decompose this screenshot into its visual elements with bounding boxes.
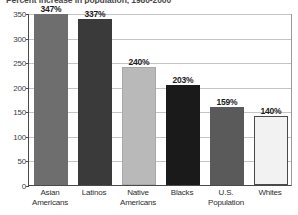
- plot-area: 347%337%240%203%159%140%: [28, 14, 292, 186]
- x-tick-label: U.S.Population: [204, 188, 248, 207]
- bar-value-label: 347%: [41, 4, 62, 14]
- chart-title: Percent increase in population, 1980-200…: [6, 0, 286, 4]
- bar[interactable]: 203%: [166, 85, 200, 185]
- y-tick-label: 100: [2, 132, 26, 141]
- x-tick-label: AsianAmericans: [28, 188, 72, 207]
- x-axis: AsianAmericansLatinosNativeAmericansBlac…: [28, 188, 292, 215]
- bars-layer: 347%337%240%203%159%140%: [29, 15, 291, 185]
- x-tick-label-line: Americans: [116, 198, 160, 208]
- x-tick-label-line: Latinos: [72, 188, 116, 198]
- bar-value-label: 240%: [129, 57, 150, 67]
- y-tickmark: [26, 186, 29, 187]
- x-tick-label: Latinos: [72, 188, 116, 198]
- x-tick-label-line: Blacks: [160, 188, 204, 198]
- bar-value-label: 140%: [261, 106, 282, 116]
- bar[interactable]: 347%: [34, 14, 68, 185]
- y-tick-label: 250: [2, 59, 26, 68]
- bar[interactable]: 240%: [122, 67, 156, 185]
- bar[interactable]: 140%: [254, 116, 288, 185]
- y-tick-label: 50: [2, 157, 26, 166]
- bar-value-label: 337%: [85, 9, 106, 19]
- bar-chart-figure: Percent increase in population, 1980-200…: [0, 0, 298, 215]
- y-tick-label: 0: [2, 182, 26, 191]
- x-tick-label: NativeAmericans: [116, 188, 160, 207]
- x-tick-label-line: U.S.: [204, 188, 248, 198]
- y-tick-label: 150: [2, 108, 26, 117]
- x-tick-label-line: Asian: [28, 188, 72, 198]
- x-tick-label: Blacks: [160, 188, 204, 198]
- x-tick-label-line: Native: [116, 188, 160, 198]
- bar[interactable]: 337%: [78, 19, 112, 185]
- bar[interactable]: 159%: [210, 107, 244, 185]
- x-tick-label-line: Americans: [28, 198, 72, 208]
- bar-value-label: 159%: [217, 97, 238, 107]
- y-tick-label: 350: [2, 10, 26, 19]
- bar-value-label: 203%: [173, 75, 194, 85]
- y-tick-label: 200: [2, 83, 26, 92]
- y-axis: 050100150200250300350: [0, 14, 26, 186]
- y-tick-label: 300: [2, 34, 26, 43]
- x-tick-label: Whites: [248, 188, 292, 198]
- x-tick-label-line: Population: [204, 198, 248, 208]
- x-tick-label-line: Whites: [248, 188, 292, 198]
